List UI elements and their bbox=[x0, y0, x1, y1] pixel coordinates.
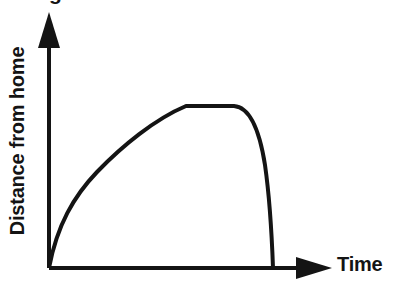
plot-area bbox=[0, 0, 404, 282]
arrow-right-icon bbox=[296, 257, 332, 279]
distance-time-graph-figure: g Distance from home Time bbox=[0, 0, 404, 282]
arrow-up-icon bbox=[38, 12, 60, 48]
y-axis-label: Distance from home bbox=[0, 0, 34, 282]
distance-time-curve bbox=[49, 106, 273, 268]
x-axis-label: Time bbox=[337, 252, 383, 276]
